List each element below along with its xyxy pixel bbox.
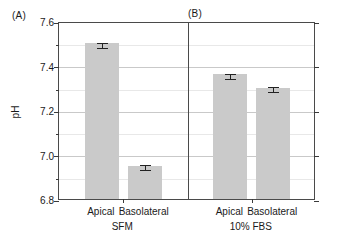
y-tick-major-right (314, 67, 319, 68)
y-tick-major-right (314, 112, 319, 113)
y-tick-label: 7.0 (28, 150, 54, 161)
x-group-label: SFM (112, 221, 133, 232)
y-tick-label: 7.4 (28, 61, 54, 72)
x-tick (123, 199, 124, 203)
x-group-label: 10% FBS (230, 221, 272, 232)
error-cap-upper (140, 165, 151, 166)
y-tick-minor (56, 45, 59, 46)
panel-label-a: (A) (12, 10, 26, 21)
x-category-label: Basolateral (119, 206, 169, 217)
error-cap-lower (97, 48, 108, 49)
x-category-label: Apical (216, 206, 243, 217)
y-tick-label: 7.6 (28, 17, 54, 28)
y-tick-label: 7.2 (28, 106, 54, 117)
panel-divider (188, 23, 189, 199)
y-tick-major (54, 201, 59, 202)
y-tick-minor (56, 179, 59, 180)
error-cap-upper (97, 43, 108, 44)
y-tick-label: 6.8 (28, 195, 54, 206)
y-axis-tick-labels: 6.87.07.27.47.6 (26, 0, 54, 242)
y-tick-major-right (314, 23, 319, 24)
x-category-label: Apical (87, 206, 114, 217)
error-cap-upper (268, 87, 279, 88)
y-tick-major (54, 112, 59, 113)
plot-area (58, 22, 315, 200)
bar (256, 88, 290, 199)
x-category-label: Basolateral (247, 206, 297, 217)
y-tick-minor (56, 134, 59, 135)
y-tick-major-right (314, 201, 319, 202)
error-cap-upper (225, 74, 236, 75)
error-cap-lower (140, 170, 151, 171)
bar (213, 74, 247, 199)
y-tick-major (54, 67, 59, 68)
error-cap-lower (225, 79, 236, 80)
y-tick-major-right (314, 156, 319, 157)
error-cap-lower (268, 92, 279, 93)
y-tick-major (54, 156, 59, 157)
bar (85, 43, 119, 199)
y-tick-minor (56, 90, 59, 91)
panel-label-b: (B) (188, 8, 202, 19)
x-tick (252, 199, 253, 203)
y-tick-major (54, 23, 59, 24)
figure-container: (A) (B) pH 6.87.07.27.47.6 ApicalBasolat… (0, 0, 343, 242)
y-axis-title: pH (4, 100, 28, 124)
